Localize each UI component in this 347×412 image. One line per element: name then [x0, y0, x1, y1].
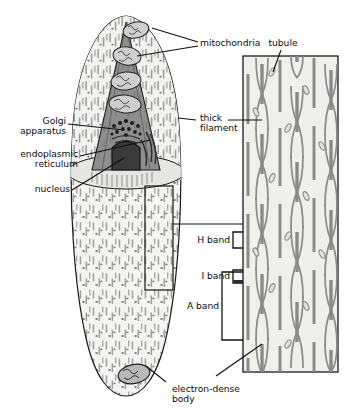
smooth-muscle-cell-body [68, 10, 186, 396]
label-tubule: tubule [258, 38, 308, 49]
label-endoplasmic-reticulum-line2: reticulum [0, 159, 78, 170]
h-band-bracket [233, 232, 243, 248]
leader-mitochondria-a [152, 28, 198, 42]
band-brackets [222, 232, 243, 340]
leader-thick-filament-cell [178, 118, 196, 120]
i-band-marker [233, 280, 243, 283]
smooth-muscle-cell-figure: mitochondria Golgi apparatus endoplasmic… [0, 0, 347, 412]
magnified-filament-panel [243, 56, 338, 374]
label-i-band: I band [178, 271, 230, 282]
diagram-canvas [0, 0, 347, 412]
label-electron-dense-body-line2: body [172, 394, 195, 405]
label-h-band: H band [178, 235, 230, 246]
label-nucleus: nucleus [0, 184, 70, 195]
label-a-band: A band [167, 301, 219, 312]
label-thick-filament-line2: filament [200, 123, 238, 134]
label-golgi-line2: apparatus [0, 126, 66, 137]
label-mitochondria: mitochondria [200, 38, 260, 49]
